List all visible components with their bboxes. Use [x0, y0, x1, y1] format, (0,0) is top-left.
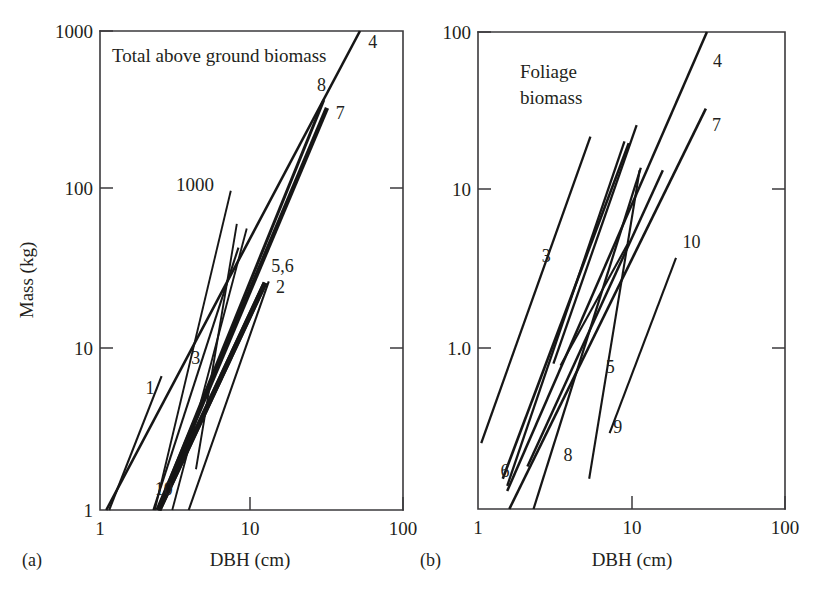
panel-b-tag: (b) — [420, 550, 441, 571]
panel-a-ylabel-1: 1 — [84, 500, 94, 521]
panel-b-series-label-3: 3 — [542, 246, 551, 266]
panel-b-line-5 — [527, 170, 662, 466]
panel-a-ylabel-1000: 1000 — [55, 21, 93, 42]
panel-a-xlabel-100: 100 — [389, 518, 418, 539]
panel-a-series-label-10: 10 — [155, 479, 173, 499]
panel-a-xlabel-1: 1 — [95, 518, 105, 539]
panel-b-line-unlabeled-b3 — [507, 141, 624, 485]
panel-a-xlabel-10: 10 — [241, 518, 260, 539]
panel-b-note-line1: Foliage — [520, 61, 577, 82]
panel-a-line-unlabeled-a2 — [172, 228, 246, 510]
panel-a-series-label-7: 7 — [336, 103, 345, 123]
panel-b: 100 10 1.0 1 10 100 DBH (cm) (b) Foliage… — [420, 22, 799, 571]
panel-a-line-6 — [159, 283, 265, 510]
panel-a-series-group — [106, 31, 360, 510]
panel-b-series-label-5: 5 — [606, 357, 615, 377]
figure-root: 1000 100 10 1 1 10 100 DBH (cm) Mass (kg… — [0, 0, 820, 590]
panel-b-ylabel-100: 100 — [443, 22, 472, 43]
panel-b-xlabel-1: 1 — [473, 517, 483, 538]
panel-a-line-8 — [158, 100, 324, 510]
panel-b-ylabel-1p0: 1.0 — [447, 338, 471, 359]
panel-a-series-label-1: 1 — [146, 378, 155, 398]
panel-b-series-group — [481, 32, 707, 509]
panel-b-series-label-4: 4 — [713, 51, 722, 71]
panel-b-series-label-6: 6 — [500, 461, 509, 481]
panel-b-line-7 — [509, 109, 706, 509]
panel-b-series-label-7: 7 — [712, 115, 721, 135]
panel-a-ylabel-100: 100 — [65, 178, 94, 199]
panel-b-ylabel-10: 10 — [452, 179, 471, 200]
panel-b-xlabel-100: 100 — [771, 517, 800, 538]
panel-a-series-label-8: 8 — [317, 75, 326, 95]
panel-b-series-labels: 4 7 3 10 5 9 8 6 — [500, 51, 722, 480]
panel-a-series-label-4: 4 — [368, 32, 377, 52]
panel-b-series-label-10: 10 — [683, 232, 701, 252]
panel-b-line-8 — [534, 168, 641, 509]
panel-b-line-3 — [553, 125, 636, 364]
panel-b-series-label-9: 9 — [613, 417, 622, 437]
panel-a-inner-annotation: 1000 — [176, 174, 214, 195]
panel-a-tag: (a) — [22, 550, 42, 571]
panel-a-ylabel-10: 10 — [74, 338, 93, 359]
panel-a: 1000 100 10 1 1 10 100 DBH (cm) Mass (kg… — [16, 21, 417, 571]
panel-b-xlabel-10: 10 — [623, 517, 642, 538]
panel-a-y-axis-title: Mass (kg) — [16, 242, 38, 319]
panel-b-x-axis-title: DBH (cm) — [592, 549, 673, 571]
panel-a-series-label-3: 3 — [191, 348, 200, 368]
panel-b-series-label-8: 8 — [563, 445, 572, 465]
panel-a-series-label-56: 5,6 — [271, 256, 294, 276]
panel-a-series-label-2: 2 — [276, 277, 285, 297]
panel-b-note-line2: biomass — [520, 87, 582, 108]
biomass-allometry-figure: 1000 100 10 1 1 10 100 DBH (cm) Mass (kg… — [0, 0, 820, 590]
panel-a-note: Total above ground biomass — [112, 45, 327, 66]
panel-a-x-axis-title: DBH (cm) — [210, 549, 291, 571]
